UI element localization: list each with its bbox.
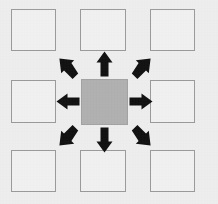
arrow-south-icon (97, 128, 113, 153)
arrow-north-icon (97, 52, 113, 77)
arrow-south-east-icon (132, 125, 151, 146)
diagram-canvas (0, 0, 218, 204)
arrow-north-east-icon (132, 58, 151, 79)
arrow-east-icon (130, 94, 153, 110)
arrow-layer (0, 0, 218, 204)
arrow-north-west-icon (59, 58, 78, 79)
arrow-south-west-icon (59, 125, 78, 146)
arrow-west-icon (57, 94, 80, 110)
